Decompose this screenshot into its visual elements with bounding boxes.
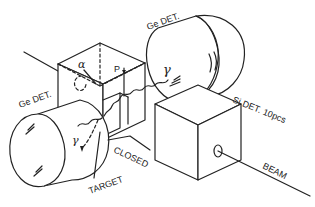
gamma-top-label: γ xyxy=(163,62,171,77)
si-detector-box xyxy=(155,85,241,180)
gamma-left-label: γ xyxy=(72,134,79,147)
ge-detector-left: γ xyxy=(10,100,109,187)
experimental-setup-diagram: P α γ γ Ge DET. Ge DET. Si DET. 10pcs xyxy=(0,0,315,207)
closed-label: CLOSED xyxy=(112,145,150,170)
beam-label: BEAM xyxy=(261,161,288,181)
polarization-label: P xyxy=(114,64,120,74)
beam-line-in xyxy=(24,52,58,71)
target-label: TARGET xyxy=(87,174,125,196)
beam-line-out xyxy=(218,151,310,196)
ge-det-left-label: Ge DET. xyxy=(17,89,52,110)
alpha-label: α xyxy=(78,58,86,71)
